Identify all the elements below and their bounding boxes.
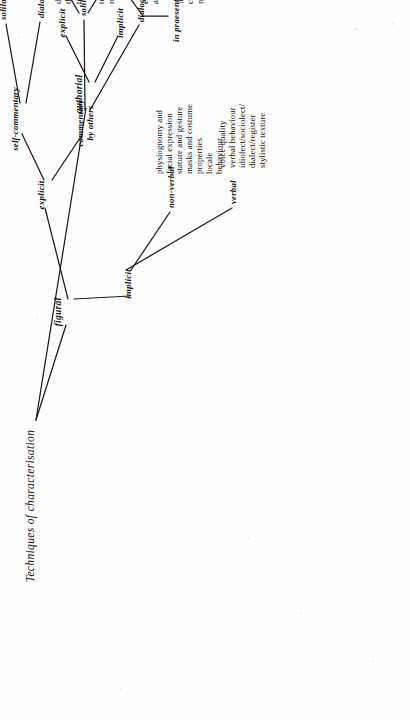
leaf-list-non-verbal: physiognomy and facial expression statur… — [155, 104, 225, 174]
node-in-praesentia: in praesentia — [172, 0, 182, 42]
leaf-authorial-implicit-correspondence: correspondence and contrast — [140, 0, 160, 4]
node-root: Techniques of characterisation — [24, 430, 37, 583]
edge-implicit-verbal — [126, 208, 232, 270]
edge-root-authorial — [36, 108, 86, 420]
leaf-authorial-explicit-telling-names: telling names — [96, 0, 116, 4]
diagram-canvas: Techniques of characterisation figural a… — [0, 0, 410, 720]
leaf-list-verbal: voice-quality verbal behaviour idiolect/… — [218, 104, 268, 168]
edge-selfcommentary-dialogue — [26, 22, 40, 103]
edge-root-figural — [36, 325, 66, 420]
tree-diagram-rotated-group: Techniques of characterisation figural a… — [0, 0, 410, 720]
node-authorial-implicit: implicit — [115, 8, 125, 38]
leaf-authorial-implicit-names: implicitly characterising names — [175, 0, 205, 4]
node-self-commentary: self-commentary — [11, 87, 21, 151]
leaf-authorial-explicit-description: description in the secondary text — [53, 0, 83, 4]
node-figural-explicit: explicit — [36, 180, 46, 209]
node-figural: figural — [53, 298, 64, 327]
node-verbal: verbal — [229, 180, 239, 204]
node-commentary-by-others: commentary by others — [76, 100, 96, 147]
edge-explicit-selfcommentary — [22, 134, 44, 180]
edge-figural-implicit — [74, 296, 130, 299]
edge-figural-explicit — [45, 208, 68, 299]
node-self-commentary-dialogue: dialogue — [37, 0, 47, 18]
edge-authorial-implicit — [95, 36, 118, 82]
node-authorial-explicit: explicit — [57, 8, 67, 37]
node-figural-implicit: implicit — [123, 269, 133, 299]
node-self-commentary-soliloquy: soliloquy — [0, 0, 9, 20]
edge-implicit-nonverbal — [131, 212, 170, 270]
